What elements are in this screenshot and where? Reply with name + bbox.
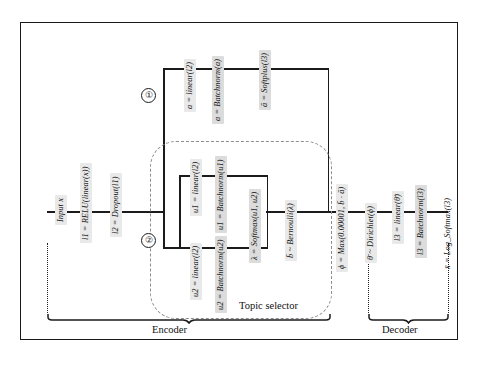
node-b-bernoulli: b̄ ~ Bernoulli(λ) xyxy=(285,200,297,261)
topic-selector-box xyxy=(150,141,332,319)
diagram-canvas: ① ② Input x l1 = RELU(linear(x)) l2 = Dr… xyxy=(0,0,479,375)
node-input: Input x xyxy=(55,195,67,225)
node-u1-batchnorm: u1 = Batchnorm(u1) xyxy=(215,156,227,233)
node-l1: l1 = RELU(linear(x)) xyxy=(80,164,92,244)
node-l3-batchnorm: l3 = Batchnorm(l3) xyxy=(415,185,427,258)
node-u2-batchnorm: u2 = Batchnorm(u2) xyxy=(215,236,227,313)
node-theta-dirichlet: θ̄ ~ Dirichlet(ϕ) xyxy=(365,203,377,263)
marker-branch-two: ② xyxy=(141,233,156,248)
decoder-caption: Decoder xyxy=(382,324,418,335)
node-a-linear: a = linear(l2) xyxy=(184,59,196,112)
node-phi-max: ϕ = Max(0.00001, b̄ · ā) xyxy=(336,184,348,272)
decoder-brace xyxy=(368,313,449,322)
encoder-brace xyxy=(47,313,331,322)
node-x-logsoftmax: x̄ = Log_Softmax(l3) xyxy=(442,195,454,272)
marker-branch-one: ① xyxy=(141,88,156,103)
node-u1-linear: u1 = linear(l2) xyxy=(190,159,202,216)
divider-encoder-start xyxy=(47,243,48,313)
node-lambda-softmax: λ = Softmax(u1, u2) xyxy=(249,189,261,263)
node-a-softplus: ā = Softplus(l3) xyxy=(259,50,271,110)
topic-selector-caption: Topic selector xyxy=(239,300,298,311)
node-l3-linear: l3 = linear(θ̄) xyxy=(392,191,404,244)
encoder-caption: Encoder xyxy=(152,324,187,335)
node-u2-linear: u2 = linear(l2) xyxy=(190,243,202,300)
node-a-batchnorm: a = Batchnorm(a) xyxy=(212,56,224,124)
node-l2: l2 = Dropout(l1) xyxy=(110,173,122,237)
